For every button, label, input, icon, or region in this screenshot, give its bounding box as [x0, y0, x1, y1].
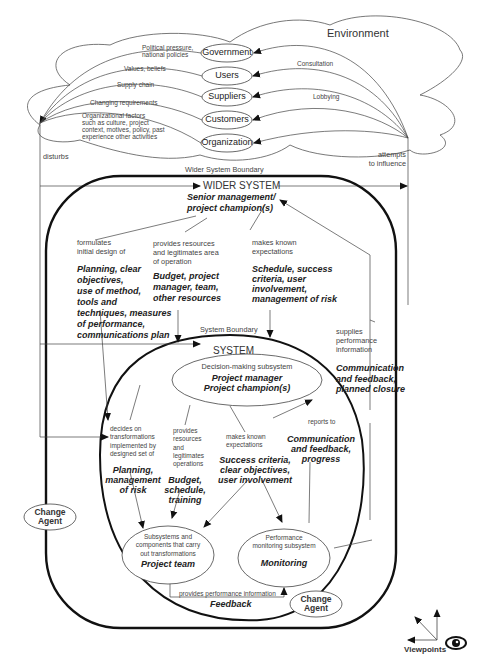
label-feedback: Feedback	[210, 599, 252, 609]
label-disturbs: disturbs	[43, 153, 69, 161]
project-team-role: Project team	[122, 559, 214, 569]
decision-role-1: Project manager	[180, 373, 314, 383]
wider-budget: Budget, project manager, team, other res…	[153, 271, 221, 304]
wider-subtitle-2: project champion(s)	[187, 203, 273, 213]
system-title: SYSTEM	[213, 345, 254, 357]
decision-label: Decision-making subsystem	[180, 363, 314, 371]
node-users: Users	[202, 70, 252, 80]
label-requirements: Changing requirements	[90, 99, 158, 106]
wider-system-title: WIDER SYSTEM	[203, 180, 280, 192]
label-org-4: experience other activities	[82, 133, 157, 140]
node-government: Government	[201, 47, 253, 57]
system-budget: Budget, schedule, training	[160, 475, 210, 505]
label-values: Values, beliefs	[124, 65, 166, 72]
system-communication: Communication and feedback, progress	[285, 434, 357, 464]
label-supply: Supply chain	[117, 81, 154, 88]
monitoring-label: Performance monitoring subsystem	[238, 534, 330, 551]
label-political-2: national policies	[142, 51, 188, 58]
label-reports-to: reports to	[308, 418, 335, 425]
label-makes-known-system: makes known expectations	[226, 433, 266, 450]
wider-communication: Communication and feedback, planned clos…	[336, 363, 405, 395]
viewpoints-label: Viewpoints	[404, 645, 446, 654]
label-provides-wider: provides resources and legitimates area …	[153, 239, 219, 266]
label-provides-system: provides resources and legitimates opera…	[173, 427, 204, 468]
node-suppliers: Suppliers	[202, 91, 252, 101]
wider-boundary-label: Wider System Boundary	[185, 166, 264, 174]
label-decides: decides on transformations implemented b…	[110, 425, 156, 458]
label-lobbying: Lobbying	[313, 93, 339, 100]
project-team-label: Subsystems and components that carry out…	[122, 533, 214, 558]
label-supplies: supplies performance information	[336, 327, 377, 354]
decision-role-2: Project champion(s)	[180, 383, 314, 393]
label-formulates-2: initial design of	[77, 248, 125, 256]
system-boundary-label: System Boundary	[200, 326, 258, 334]
node-organization: Organization	[201, 137, 253, 147]
label-makes-known-wider: makes known expectations	[252, 238, 297, 256]
system-success: Success criteria, clear objectives, user…	[215, 455, 295, 485]
label-provides-perf: provides performance information	[179, 590, 276, 597]
wider-subtitle-1: Senior management/	[187, 192, 276, 202]
label-attempts-2: to influence	[346, 160, 406, 168]
system-planning: Planning, management of risk	[102, 465, 164, 495]
change-agent-right: Change Agent	[290, 595, 342, 613]
change-agent-left: Change Agent	[24, 508, 76, 526]
environment-title: Environment	[327, 27, 389, 40]
monitoring-role: Monitoring	[238, 558, 330, 568]
node-customers: Customers	[202, 114, 252, 124]
wider-schedule: Schedule, success criteria, user involve…	[252, 264, 337, 304]
label-consultation: Consultation	[297, 60, 333, 67]
